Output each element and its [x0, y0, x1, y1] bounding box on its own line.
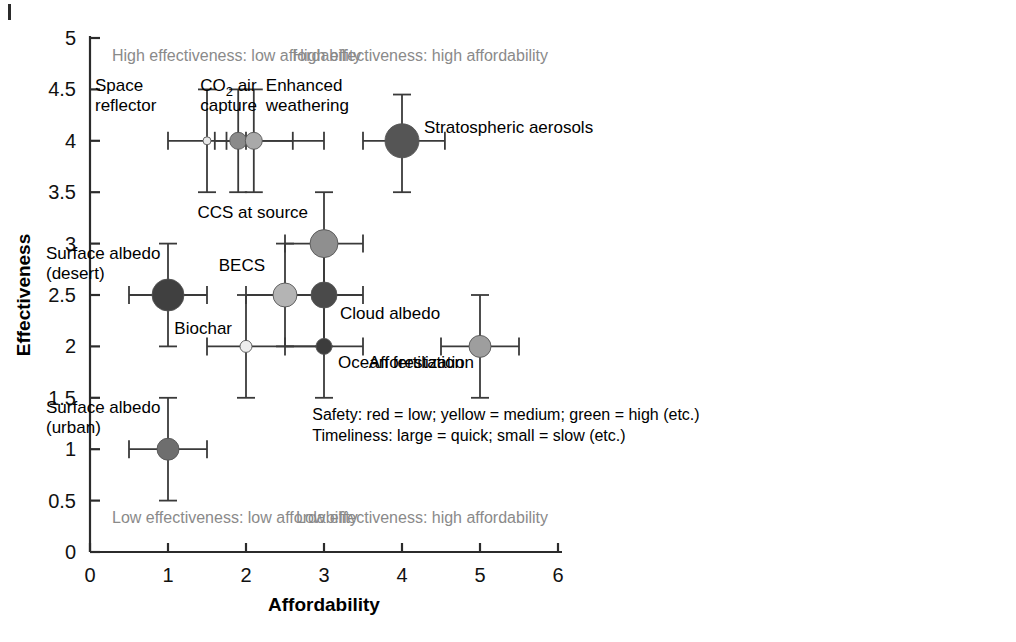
marker-biochar[interactable]: [240, 340, 252, 352]
marker-enhanced-weathering[interactable]: [245, 132, 262, 149]
scatter-chart-figure: 0123456Affordability00.511.522.533.544.5…: [0, 0, 1016, 642]
data-point-stratospheric-aerosols[interactable]: Stratospheric aerosols: [385, 118, 593, 158]
marker-surface-albedo-desert-[interactable]: [152, 279, 184, 311]
legend-line-timeliness: Timeliness: large = quick; small = slow …: [312, 427, 625, 444]
y-tick-label: 2: [65, 335, 76, 357]
x-tick-label: 4: [396, 564, 407, 586]
x-tick-label: 0: [84, 564, 95, 586]
encoding-legend: Safety: red = low; yellow = medium; gree…: [312, 406, 699, 444]
data-point-label: Space: [95, 76, 143, 95]
data-point-label: capture: [200, 96, 257, 115]
data-point-label: Enhanced: [266, 76, 343, 95]
y-tick-label: 3.5: [48, 181, 76, 203]
marker-co2-air-capture[interactable]: [230, 132, 247, 149]
data-point-biochar[interactable]: Biochar: [174, 319, 252, 352]
data-point-label: Surface albedo: [46, 398, 160, 417]
y-tick-label: 4.5: [48, 78, 76, 100]
data-point-label: reflector: [95, 96, 157, 115]
x-axis-title: Affordability: [268, 594, 380, 615]
x-tick-label: 2: [240, 564, 251, 586]
data-point-cloud-albedo[interactable]: Cloud albedo: [311, 282, 440, 323]
y-tick-label: 5: [65, 27, 76, 49]
marker-space-reflector[interactable]: [203, 137, 211, 145]
y-tick-label: 2.5: [48, 284, 76, 306]
data-point-label: Cloud albedo: [340, 304, 440, 323]
x-tick-label: 1: [162, 564, 173, 586]
y-tick-label: 1: [65, 438, 76, 460]
y-tick-label: 0.5: [48, 490, 76, 512]
marker-ocean-fertilization[interactable]: [316, 338, 332, 354]
legend-line-safety: Safety: red = low; yellow = medium; gree…: [312, 406, 699, 423]
x-tick-label: 3: [318, 564, 329, 586]
y-tick-label: 4: [65, 130, 76, 152]
y-tick-label: 0: [65, 541, 76, 563]
data-point-label: (desert): [46, 264, 105, 283]
data-point-label: Biochar: [174, 319, 232, 338]
data-point-label: BECS: [219, 256, 265, 275]
data-point-label: CCS at source: [197, 203, 308, 222]
marker-becs[interactable]: [273, 283, 297, 307]
marker-stratospheric-aerosols[interactable]: [385, 124, 419, 158]
data-point-ccs-at-source[interactable]: CCS at source: [197, 203, 338, 258]
marker-cloud-albedo[interactable]: [311, 282, 337, 308]
marker-afforestation[interactable]: [469, 335, 491, 357]
marker-ccs-at-source[interactable]: [310, 230, 338, 258]
data-point-label: Stratospheric aerosols: [424, 118, 593, 137]
data-point-label: Surface albedo: [46, 244, 160, 263]
x-tick-label: 6: [552, 564, 563, 586]
marker-surface-albedo-urban-[interactable]: [157, 438, 179, 460]
quadrant-label-bottom-right: Low effectiveness: high affordability: [296, 509, 548, 526]
y-axis-title: Effectiveness: [13, 234, 34, 357]
data-point-label: (urban): [46, 418, 101, 437]
data-point-space-reflector[interactable]: Spacereflector: [95, 76, 211, 145]
data-point-label: Afforestation: [369, 353, 464, 372]
x-tick-label: 5: [474, 564, 485, 586]
x-axis-ticks: 0123456Affordability: [84, 543, 563, 615]
plot-canvas: 0123456Affordability00.511.522.533.544.5…: [0, 0, 1016, 642]
quadrant-label-top-right: High effectiveness: high affordability: [292, 47, 548, 64]
data-point-enhanced-weathering[interactable]: Enhancedweathering: [245, 76, 349, 150]
data-points: SpacereflectorCO2 aircaptureEnhancedweat…: [46, 76, 593, 460]
data-point-label: weathering: [265, 96, 349, 115]
y-axis-ticks: 00.511.522.533.544.55Effectiveness: [13, 27, 100, 563]
